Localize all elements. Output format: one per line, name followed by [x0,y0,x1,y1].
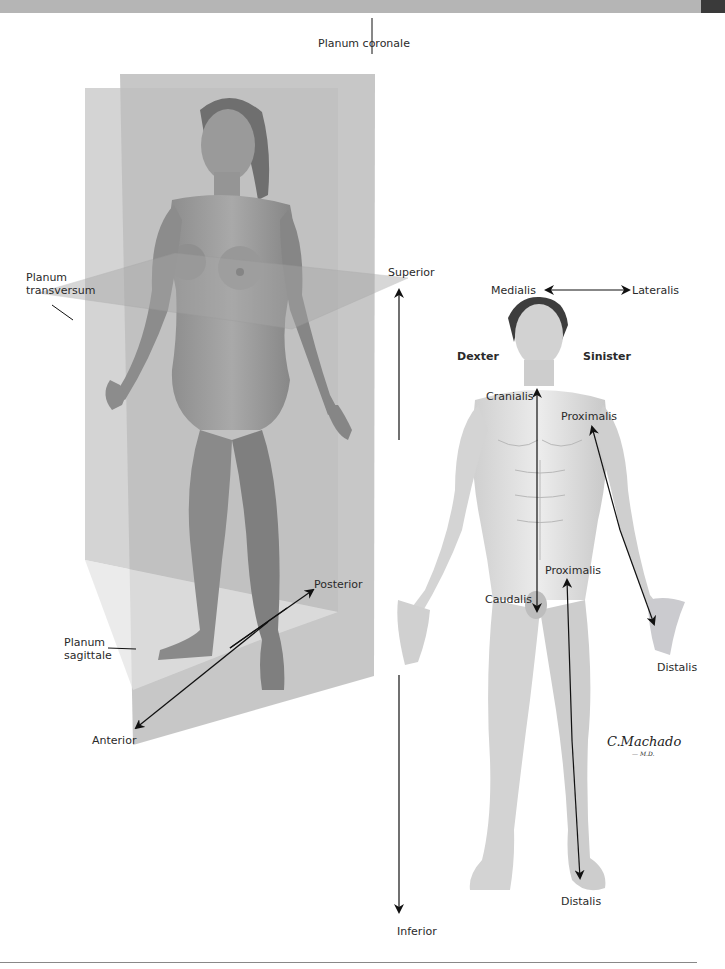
label-planum-transversum-1: Planum [26,271,67,284]
label-planum-transversum-2: transversum [26,284,96,297]
label-dexter: Dexter [457,350,499,363]
label-posterior: Posterior [314,578,363,591]
footer-rule [0,962,697,963]
label-sinister: Sinister [583,350,631,363]
transversum-leader-line [52,305,73,320]
label-proximalis-leg: Proximalis [545,564,601,577]
label-distalis-leg: Distalis [561,895,601,908]
label-distalis-arm: Distalis [657,661,697,674]
label-proximalis-arm: Proximalis [561,410,617,423]
label-planum-coronale: Planum coronale [318,37,410,50]
label-cranialis: Cranialis [486,390,534,403]
label-caudalis: Caudalis [485,593,532,606]
label-inferior: Inferior [397,925,437,938]
label-superior: Superior [388,266,435,279]
label-planum-sagittale-1: Planum [64,636,105,649]
label-medialis: Medialis [491,284,536,297]
anatomy-illustration [0,0,725,969]
artist-signature: C.Machado [607,734,681,749]
label-planum-sagittale-2: sagittale [64,649,112,662]
male-figure [397,297,685,890]
label-anterior: Anterior [92,734,136,747]
label-lateralis: Lateralis [632,284,679,297]
artist-signature-suffix: — M.D. [632,750,654,757]
